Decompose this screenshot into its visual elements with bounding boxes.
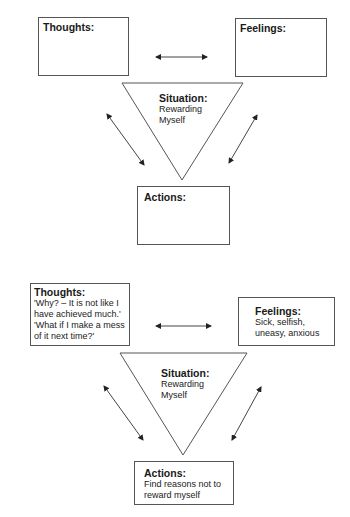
thoughts-line: 'What if I make a mess — [34, 320, 126, 331]
thoughts-box: Thoughts: 'Why? – It is not like I have … — [30, 283, 130, 346]
situation-line: Myself — [161, 390, 209, 401]
feelings-title: Feelings: — [240, 22, 322, 34]
actions-box: Actions: Find reasons not to reward myse… — [134, 461, 234, 505]
feelings-box: Feelings: Sick, selfish, uneasy, anxious — [238, 297, 335, 346]
situation-title: Situation: — [161, 367, 209, 379]
thoughts-title: Thoughts: — [43, 21, 124, 33]
actions-line: reward myself — [144, 490, 233, 501]
feelings-title: Feelings: — [255, 305, 334, 317]
thoughts-actions-arrow — [104, 386, 143, 440]
feelings-line: Sick, selfish, — [255, 317, 334, 328]
feelings-actions-arrow — [232, 387, 261, 440]
situation-line: Rewarding — [159, 104, 207, 115]
situation-label: Situation: Rewarding Myself — [159, 92, 207, 126]
actions-title: Actions: — [144, 467, 233, 479]
actions-line: Find reasons not to — [144, 479, 233, 490]
thoughts-actions-arrow — [107, 114, 144, 165]
situation-label: Situation: Rewarding Myself — [161, 367, 209, 401]
actions-title: Actions: — [144, 191, 223, 203]
feelings-box: Feelings: — [235, 18, 327, 77]
actions-box: Actions: — [137, 186, 230, 245]
thoughts-line: 'Why? – It is not like I — [34, 298, 126, 309]
thoughts-line: of it next time?' — [34, 331, 126, 342]
thoughts-title: Thoughts: — [34, 286, 126, 298]
thoughts-box: Thoughts: — [38, 17, 129, 76]
situation-line: Myself — [159, 115, 207, 126]
thoughts-line: have achieved much.' — [34, 309, 126, 320]
connector-layer — [0, 0, 350, 517]
feelings-line: uneasy, anxious — [255, 328, 334, 339]
situation-title: Situation: — [159, 92, 207, 104]
feelings-actions-arrow — [229, 115, 257, 163]
situation-line: Rewarding — [161, 379, 209, 390]
